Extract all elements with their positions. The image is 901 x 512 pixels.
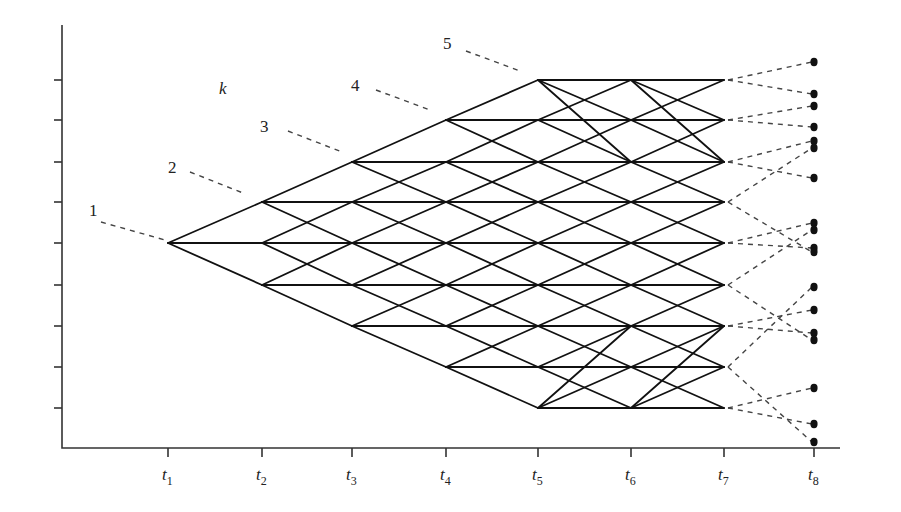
lattice-edge	[446, 367, 538, 408]
terminal-link	[728, 106, 812, 120]
stage-leader-line	[288, 131, 342, 152]
time-label: t3	[346, 465, 357, 488]
terminal-link	[728, 80, 812, 94]
terminal-dots	[810, 58, 817, 446]
terminal-node-dot	[810, 90, 817, 98]
lattice-edges	[168, 80, 724, 408]
terminal-node-dot	[810, 438, 817, 446]
terminal-node-dot	[810, 306, 817, 314]
terminal-link	[728, 388, 812, 408]
time-label: t6	[625, 465, 636, 488]
terminal-node-dot	[810, 123, 817, 131]
lattice-edge	[538, 80, 631, 162]
stage-leader-line	[466, 51, 520, 71]
terminal-link	[728, 141, 812, 162]
lattice-edge	[631, 80, 724, 162]
lattice-edge	[352, 326, 446, 367]
axis-lines	[62, 25, 840, 448]
lattice-edge	[352, 120, 446, 162]
time-label: t2	[256, 465, 267, 488]
axis-ticks	[54, 80, 814, 457]
diagram-labels: t1t2t3t4t5t6t7t812345k	[89, 34, 819, 488]
stage-label: 5	[443, 34, 452, 53]
terminal-link	[728, 223, 812, 243]
terminal-node-dot	[810, 102, 817, 110]
axes	[62, 25, 840, 448]
terminal-node-dot	[810, 144, 817, 152]
lattice-edge	[262, 285, 352, 326]
terminal-node-dot	[810, 174, 817, 182]
time-label: t8	[808, 465, 819, 488]
time-label: t7	[718, 465, 729, 488]
terminal-link	[728, 202, 812, 252]
terminal-node-dot	[810, 336, 817, 344]
terminal-link	[728, 162, 812, 178]
time-label: t4	[440, 465, 451, 488]
lattice-edge	[168, 202, 262, 243]
stage-label: 3	[260, 117, 269, 136]
stage-leader-line	[101, 222, 165, 240]
terminal-node-dot	[810, 248, 817, 256]
time-label: t1	[162, 465, 173, 488]
terminal-dashed-links	[728, 62, 812, 442]
lattice-diagram: t1t2t3t4t5t6t7t812345k	[0, 0, 901, 512]
lattice-edge	[446, 80, 538, 120]
terminal-node-dot	[810, 283, 817, 291]
time-label: t5	[532, 465, 543, 488]
terminal-node-dot	[810, 58, 817, 66]
terminal-link	[728, 62, 812, 80]
lattice-edge	[262, 162, 352, 202]
terminal-link	[728, 326, 812, 333]
k-label: k	[219, 79, 227, 98]
stage-label: 2	[168, 158, 177, 177]
terminal-link	[728, 230, 812, 285]
stage-label: 4	[351, 76, 360, 95]
stage-leader-line	[376, 90, 430, 110]
stage-label: 1	[89, 201, 98, 220]
lattice-edge	[168, 243, 262, 285]
terminal-node-dot	[810, 226, 817, 234]
terminal-node-dot	[810, 420, 817, 428]
terminal-link	[728, 408, 812, 424]
terminal-node-dot	[810, 384, 817, 392]
stage-leader-line	[190, 172, 243, 193]
terminal-link	[728, 120, 812, 127]
